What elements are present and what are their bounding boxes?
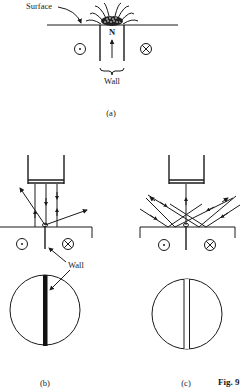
wall-label-a: Wall — [104, 76, 120, 86]
field-into-page-icon — [141, 44, 152, 55]
wall-leader-lower — [50, 270, 70, 290]
sample-surface-b — [0, 227, 92, 238]
north-pole-label: N — [109, 27, 116, 37]
wall-brace — [100, 68, 124, 75]
microscope-view-c — [152, 279, 222, 349]
wall-label-b: Wall — [68, 260, 84, 270]
field-out-of-page-icon — [75, 44, 86, 55]
panel-c: (c) — [140, 155, 240, 388]
field-into-page-icon — [63, 239, 74, 250]
objective-lens-b — [28, 155, 64, 184]
caption-c: (c) — [181, 378, 191, 388]
panel-a: Surface N — [26, 1, 178, 118]
field-out-of-page-icon — [159, 240, 170, 251]
figure-canvas: Surface N — [0, 0, 245, 388]
sample-surface-c — [140, 227, 235, 238]
field-into-page-icon — [205, 240, 216, 251]
light-beams-b — [20, 184, 87, 227]
light-beams-c — [140, 184, 240, 227]
caption-a: (a) — [106, 108, 116, 118]
dark-wall-stripe — [43, 275, 48, 346]
figure-number: Fig. 9 — [218, 377, 240, 387]
caption-b: (b) — [40, 378, 50, 388]
bright-wall-stripe — [184, 279, 190, 349]
field-out-of-page-icon — [17, 239, 28, 250]
surface-leader-line — [58, 7, 81, 23]
microscope-view-b — [10, 275, 80, 346]
wall-leader-upper — [49, 248, 66, 262]
surface-label: Surface — [26, 1, 52, 11]
particle-cluster — [101, 15, 123, 26]
panel-b: Wall (b) — [0, 155, 92, 388]
objective-lens-c — [169, 155, 204, 184]
